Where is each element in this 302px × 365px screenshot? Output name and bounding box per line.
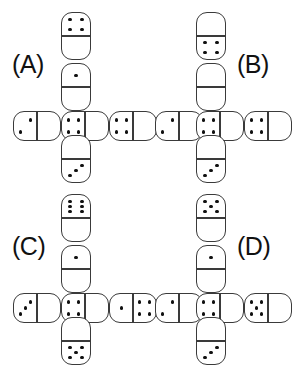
domino-face-b — [62, 159, 90, 182]
pip — [255, 306, 258, 309]
panel-c: (C) — [0, 183, 151, 365]
panel-b: (B) — [151, 0, 302, 183]
pip — [77, 312, 80, 315]
pip — [215, 51, 218, 54]
pip — [260, 300, 263, 303]
pip — [202, 130, 205, 133]
pip — [209, 169, 212, 172]
domino-face-b — [62, 341, 90, 364]
domino-face-a — [62, 64, 90, 87]
domino-cross-a — [0, 0, 151, 183]
domino-upper-middle — [61, 245, 91, 293]
pip — [24, 306, 27, 309]
pip — [68, 28, 71, 31]
pip — [68, 174, 71, 177]
pip — [202, 300, 205, 303]
pip — [80, 18, 83, 21]
pip — [202, 312, 205, 315]
pip — [209, 351, 212, 354]
domino-face-b — [62, 36, 90, 59]
panel-grid: (A)(B)(C)(D) — [0, 0, 302, 365]
panel-d: (D) — [151, 183, 302, 365]
domino-face-a — [245, 112, 268, 140]
pip — [68, 346, 71, 349]
pip — [67, 312, 70, 315]
domino-bottom — [61, 317, 91, 365]
domino-top — [61, 194, 91, 242]
pip — [215, 200, 218, 203]
pip — [161, 312, 164, 315]
pip — [80, 205, 83, 208]
pip — [203, 41, 206, 44]
pip — [74, 169, 77, 172]
pip — [68, 205, 71, 208]
pip — [203, 200, 206, 203]
pip — [250, 130, 253, 133]
pip — [250, 312, 253, 315]
pip — [215, 346, 218, 349]
domino-face-a — [62, 246, 90, 269]
pip — [19, 130, 22, 133]
domino-face-a — [62, 136, 90, 159]
domino-face-a — [197, 246, 225, 269]
pip — [250, 300, 253, 303]
pip — [80, 346, 83, 349]
pip — [80, 164, 83, 167]
pip — [77, 118, 80, 121]
pip — [125, 118, 128, 121]
domino-face-a — [110, 112, 133, 140]
pip — [171, 300, 174, 303]
pip — [203, 51, 206, 54]
pip — [212, 312, 215, 315]
pip — [68, 356, 71, 359]
domino-face-a — [62, 195, 90, 218]
domino-top — [61, 12, 91, 60]
pip — [171, 118, 174, 121]
domino-face-a — [245, 294, 268, 322]
domino-face-b — [197, 218, 225, 241]
domino-right — [109, 293, 157, 323]
domino-right — [244, 293, 292, 323]
domino-face-b — [197, 269, 225, 292]
domino-right — [244, 111, 292, 141]
pip — [68, 18, 71, 21]
domino-face-a — [62, 13, 90, 36]
pip — [260, 312, 263, 315]
pip — [260, 130, 263, 133]
domino-face-a — [197, 13, 225, 36]
pip — [74, 351, 77, 354]
pip — [125, 130, 128, 133]
pip — [250, 118, 253, 121]
domino-left — [13, 111, 61, 141]
domino-cross-c — [0, 183, 151, 365]
domino-upper-middle — [61, 63, 91, 111]
domino-face-a — [197, 195, 225, 218]
pip — [212, 118, 215, 121]
pip — [203, 356, 206, 359]
domino-face-b — [197, 159, 225, 182]
domino-upper-middle — [196, 63, 226, 111]
domino-cross-b — [151, 0, 302, 183]
pip — [115, 130, 118, 133]
pip — [215, 164, 218, 167]
pip — [115, 118, 118, 121]
domino-face-b — [62, 269, 90, 292]
domino-left — [13, 293, 61, 323]
pip — [80, 28, 83, 31]
domino-face-b — [268, 294, 291, 322]
pip — [67, 130, 70, 133]
domino-top — [196, 12, 226, 60]
pip — [138, 300, 141, 303]
pip — [138, 312, 141, 315]
pip — [161, 130, 164, 133]
domino-right — [109, 111, 157, 141]
pip — [203, 210, 206, 213]
pip — [68, 200, 71, 203]
pip — [80, 356, 83, 359]
domino-face-a — [110, 294, 133, 322]
pip — [202, 118, 205, 121]
pip — [260, 118, 263, 121]
pip — [67, 300, 70, 303]
domino-face-b — [197, 87, 225, 110]
domino-upper-middle — [196, 245, 226, 293]
